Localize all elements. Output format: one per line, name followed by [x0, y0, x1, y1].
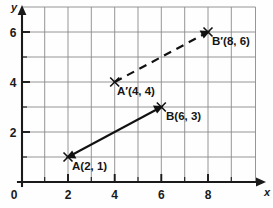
- x-tick-label-4: 4: [111, 188, 118, 202]
- point-label-B-prime: B′(8, 6): [212, 35, 250, 47]
- segment-A-prime-B-prime: [115, 31, 210, 82]
- y-axis-ticks: [22, 32, 30, 132]
- point-label-A: A(2, 1): [72, 160, 107, 172]
- y-tick-label-2: 2: [10, 126, 17, 140]
- y-tick-label-6: 6: [10, 26, 17, 40]
- x-tick-label-8: 8: [205, 188, 212, 202]
- y-axis-label: y: [10, 1, 18, 13]
- x-tick-label-6: 6: [158, 188, 165, 202]
- point-label-B: B(6, 3): [166, 110, 201, 122]
- y-tick-label-4: 4: [10, 76, 17, 90]
- x-tick-label-0: 0: [11, 188, 18, 202]
- graph-svg: 0 2 4 6 8 2 4 6 y x A(2, 1) B(6, 3) A′(4…: [0, 0, 273, 208]
- grid-horizontal-lines: [22, 7, 256, 157]
- y-axis-arrowhead: [18, 5, 27, 15]
- coordinate-plane-figure: 0 2 4 6 8 2 4 6 y x A(2, 1) B(6, 3) A′(4…: [0, 0, 273, 208]
- point-label-A-prime: A′(4, 4): [117, 85, 155, 97]
- x-axis-label: x: [263, 186, 271, 198]
- x-tick-label-2: 2: [65, 188, 72, 202]
